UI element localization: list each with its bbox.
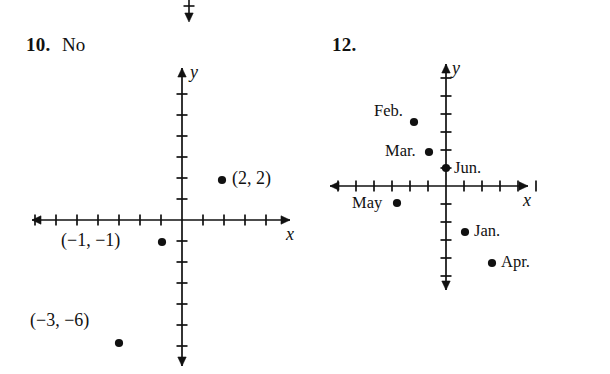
point-label-12-jan: Jan. <box>474 221 500 241</box>
arrowheads-group <box>330 64 528 290</box>
data-point-4 <box>461 228 469 236</box>
point-label-12-mar: Mar. <box>385 141 416 161</box>
y-axis-arrow-down <box>178 357 186 366</box>
data-point-3 <box>393 199 401 207</box>
data-point-1 <box>425 148 433 156</box>
worksheet-page: 10. No x y (2, 2) (−1, −1) (−3, −6) 12. … <box>0 0 610 374</box>
point-label-10-0: (2, 2) <box>232 168 271 189</box>
data-point-0 <box>410 118 418 126</box>
y-axis-label-10: y <box>190 62 198 83</box>
point-label-10-2: (−3, −6) <box>30 310 89 331</box>
x-axis-label-10: x <box>286 224 294 245</box>
data-point-0 <box>218 176 226 184</box>
x-axis-arrow-left <box>32 216 41 224</box>
x-axis-arrow-right <box>519 182 528 190</box>
data-point-2 <box>115 339 123 347</box>
point-label-12-apr: Apr. <box>501 252 530 272</box>
y-axis-arrow-down <box>442 281 450 290</box>
point-label-12-feb: Feb. <box>374 101 403 121</box>
point-label-10-1: (−1, −1) <box>61 230 120 251</box>
coordinate-plane-12 <box>305 0 610 374</box>
point-label-12-jun: Jun. <box>454 158 481 178</box>
data-point-5 <box>488 259 496 267</box>
data-point-2 <box>442 164 450 172</box>
x-axis-arrow-left <box>330 182 339 190</box>
x-axis-label-12: x <box>523 190 531 211</box>
data-point-1 <box>158 238 166 246</box>
y-axis-arrow-up <box>442 64 450 73</box>
y-axis-label-12: y <box>452 58 460 79</box>
y-axis-arrow-up <box>178 68 186 77</box>
x-axis-arrow-right <box>281 216 290 224</box>
data-points-group <box>115 176 226 347</box>
point-label-12-may: May <box>352 193 382 213</box>
